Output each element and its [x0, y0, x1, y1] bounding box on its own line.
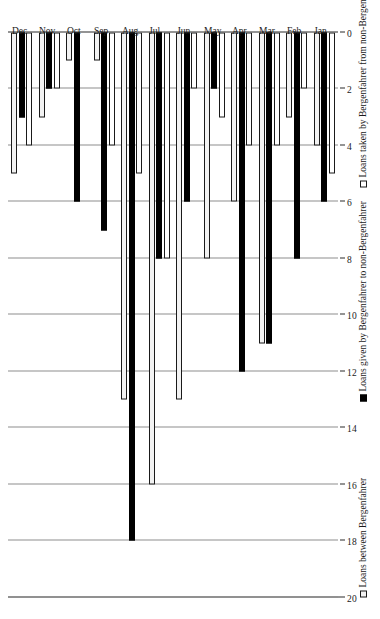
category-label-mar: Mar — [259, 25, 275, 35]
tick-mark — [340, 540, 345, 541]
tick-label: 0 — [347, 28, 352, 38]
category-label-nov: Nov — [39, 25, 55, 35]
hollow-light-swatch — [360, 590, 367, 597]
tick-mark — [340, 370, 345, 371]
bar-between-jun — [176, 32, 182, 399]
tick-mark — [340, 257, 345, 258]
bar-between-nov — [39, 32, 45, 117]
bar-given-jul — [156, 32, 162, 258]
category-label-aug: Aug — [122, 25, 138, 35]
tick-label: 8 — [347, 254, 352, 264]
tick-label: 4 — [347, 141, 352, 151]
category-label-apr: Apr — [232, 25, 247, 35]
bar-taken-may — [219, 32, 225, 117]
bar-given-oct — [74, 32, 80, 202]
month-group-mar — [256, 32, 284, 597]
month-group-jun — [173, 32, 201, 597]
bar-taken-apr — [246, 32, 252, 145]
bar-between-mar — [259, 32, 265, 343]
bar-taken-jan — [329, 32, 335, 173]
rotated-chart-canvas: 20181614121086420 Loans between Bergenfa… — [0, 0, 380, 619]
bar-between-may — [204, 32, 210, 258]
month-group-nov — [36, 32, 64, 597]
bar-taken-jun — [191, 32, 197, 89]
tick-label: 2 — [347, 85, 352, 95]
tick-label: 16 — [347, 480, 357, 490]
tick-label: 6 — [347, 198, 352, 208]
chart-figure: 20181614121086420 Loans between Bergenfa… — [0, 0, 380, 619]
month-group-dec — [8, 32, 36, 597]
category-label-sep: Sep — [94, 25, 108, 35]
legend-label-between: Loans between Bergenfahrer — [358, 477, 369, 587]
bar-between-sep — [94, 32, 100, 60]
legend-item-taken: Loans taken by Bergenfahrer from non-Ber… — [358, 0, 369, 187]
legend-item-between: Loans between Bergenfahrer — [358, 477, 369, 597]
month-group-may — [201, 32, 229, 597]
category-label-may: May — [204, 25, 221, 35]
bar-taken-jul — [164, 32, 170, 258]
bar-between-dec — [11, 32, 17, 173]
month-group-jan — [311, 32, 339, 597]
month-group-oct — [63, 32, 91, 597]
bar-between-oct — [66, 32, 72, 60]
bar-between-aug — [121, 32, 127, 399]
bar-given-dec — [19, 32, 25, 117]
bar-taken-feb — [301, 32, 307, 89]
bar-taken-nov — [54, 32, 60, 89]
bar-taken-dec — [26, 32, 32, 145]
bar-given-sep — [101, 32, 107, 230]
bar-between-apr — [231, 32, 237, 202]
month-group-sep — [91, 32, 119, 597]
legend-item-given: Loans given by Bergenfahrer to non-Berge… — [358, 201, 369, 401]
tick-mark — [340, 596, 345, 597]
bar-given-jun — [184, 32, 190, 202]
tick-mark — [340, 144, 345, 145]
tick-mark — [340, 314, 345, 315]
category-label-jun: Jun — [177, 25, 190, 35]
bar-taken-mar — [274, 32, 280, 145]
category-label-jan: Jan — [314, 25, 327, 35]
bar-given-feb — [294, 32, 300, 258]
tick-label: 18 — [347, 537, 357, 547]
hollow-white-swatch — [360, 180, 367, 187]
solid-black-swatch — [360, 394, 367, 401]
month-group-aug — [118, 32, 146, 597]
bar-given-jan — [321, 32, 327, 202]
category-label-jul: Jul — [149, 25, 160, 35]
tick-mark — [340, 427, 345, 428]
month-group-jul — [146, 32, 174, 597]
category-label-dec: Dec — [12, 25, 27, 35]
bar-taken-sep — [109, 32, 115, 145]
category-label-feb: Feb — [287, 25, 301, 35]
tick-mark — [340, 88, 345, 89]
bar-given-nov — [46, 32, 52, 89]
bar-taken-aug — [136, 32, 142, 173]
tick-label: 10 — [347, 311, 357, 321]
legend-label-taken: Loans taken by Bergenfahrer from non-Ber… — [358, 0, 369, 177]
bar-given-mar — [266, 32, 272, 343]
bar-given-apr — [239, 32, 245, 371]
legend-label-given: Loans given by Bergenfahrer to non-Berge… — [358, 201, 369, 391]
month-group-feb — [283, 32, 311, 597]
tick-mark — [340, 483, 345, 484]
month-group-apr — [228, 32, 256, 597]
tick-label: 14 — [347, 424, 357, 434]
tick-mark — [340, 201, 345, 202]
tick-label: 20 — [347, 593, 357, 603]
plot-area — [8, 32, 338, 597]
bar-given-aug — [129, 32, 135, 541]
bar-given-may — [211, 32, 217, 89]
tick-label: 12 — [347, 367, 357, 377]
bar-between-feb — [286, 32, 292, 117]
category-label-oct: Oct — [67, 25, 81, 35]
tick-mark — [340, 31, 345, 32]
bar-between-jul — [149, 32, 155, 484]
bar-between-jan — [314, 32, 320, 145]
chart-legend: Loans between Bergenfahrer Loans given b… — [358, 32, 376, 597]
